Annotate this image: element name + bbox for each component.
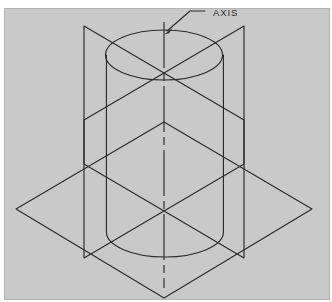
figure-container: AXIS: [0, 0, 332, 302]
isometric-cylinder-diagram: AXIS: [0, 0, 332, 302]
axis-label-text: AXIS: [213, 7, 238, 18]
figure-plate-background: [4, 8, 330, 300]
